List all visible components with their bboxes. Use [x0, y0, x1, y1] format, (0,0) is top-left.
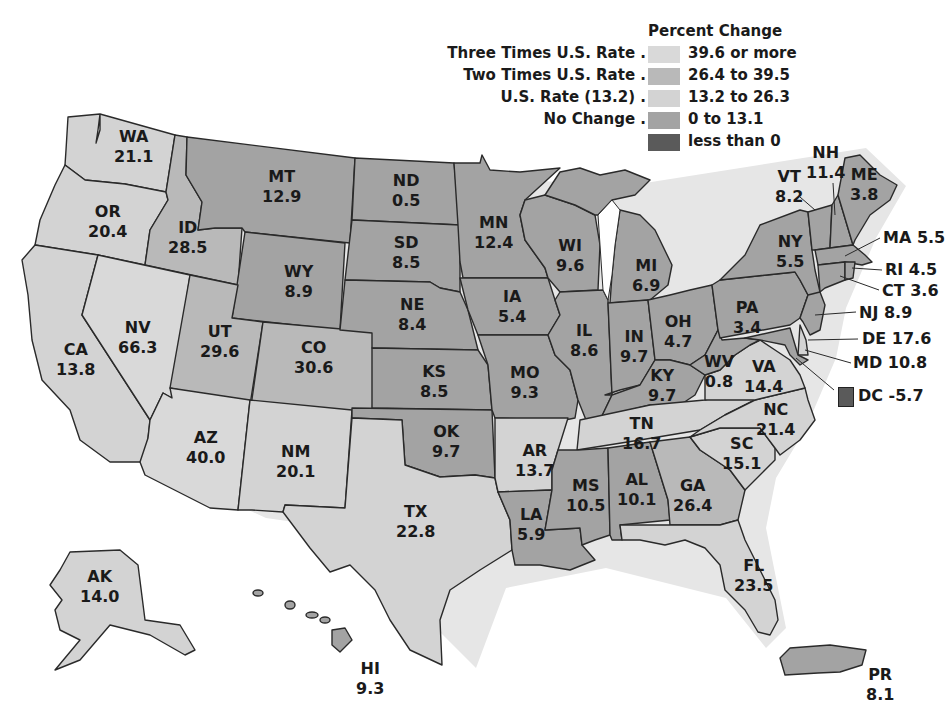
- label-nc: NC21.4: [756, 400, 795, 440]
- label-il: IL8.6: [570, 321, 598, 361]
- label-wy: WY8.9: [284, 262, 313, 302]
- legend-left-label: Two Times U.S. Rate .: [463, 66, 646, 84]
- label-md: MD 10.8: [853, 353, 927, 372]
- label-wa: WA21.1: [114, 127, 153, 167]
- state-hi: [253, 590, 352, 652]
- label-oh: OH4.7: [664, 312, 692, 352]
- label-ok: OK9.7: [432, 422, 460, 462]
- label-wi: WI9.6: [556, 236, 584, 276]
- label-mt: MT12.9: [262, 167, 301, 207]
- label-fl: FL23.5: [734, 556, 773, 596]
- label-nh: NH11.4: [806, 143, 845, 183]
- label-al: AL10.1: [617, 470, 656, 510]
- label-va: VA14.4: [744, 357, 783, 397]
- label-pr: PR8.1: [866, 665, 894, 705]
- dc-swatch: [838, 387, 854, 407]
- label-pa: PA3.4: [733, 298, 761, 338]
- label-id: ID28.5: [168, 218, 207, 258]
- legend-range: 13.2 to 26.3: [688, 88, 790, 106]
- label-ms: MS10.5: [566, 476, 605, 516]
- label-ia: IA5.4: [498, 287, 526, 327]
- label-sd: SD8.5: [392, 233, 420, 273]
- label-me: ME3.8: [850, 165, 878, 205]
- label-hi: HI9.3: [356, 659, 384, 699]
- label-az: AZ40.0: [186, 428, 225, 468]
- label-tn: TN16.7: [622, 414, 661, 454]
- label-sc: SC15.1: [722, 434, 761, 474]
- legend-row-three-times: Three Times U.S. Rate . 39.6 or more: [436, 44, 796, 64]
- label-ct: CT 3.6: [882, 281, 939, 300]
- label-or: OR20.4: [88, 202, 127, 242]
- label-ma: MA 5.5: [883, 228, 945, 247]
- label-in: IN9.7: [620, 327, 648, 367]
- legend-row-less-than-zero: less than 0: [436, 132, 796, 152]
- legend-range: less than 0: [688, 132, 781, 150]
- legend-swatch: [648, 68, 680, 85]
- label-mi: MI6.9: [632, 256, 660, 296]
- legend-swatch: [648, 134, 680, 151]
- legend-row-us-rate: U.S. Rate (13.2) . 13.2 to 26.3: [436, 88, 796, 108]
- legend-range: 26.4 to 39.5: [688, 66, 790, 84]
- label-ky: KY9.7: [648, 366, 676, 406]
- legend-left-label: No Change .: [544, 110, 646, 128]
- legend-left-label: U.S. Rate (13.2) .: [501, 88, 646, 106]
- state-pr: [780, 645, 866, 675]
- label-nj: NJ 8.9: [859, 303, 912, 322]
- label-ny: NY5.5: [776, 232, 804, 272]
- legend-title: Percent Change: [648, 22, 782, 40]
- label-nv: NV66.3: [118, 318, 157, 358]
- label-ca: CA13.8: [56, 340, 95, 380]
- legend-swatch: [648, 112, 680, 129]
- label-wv: WV0.8: [704, 352, 734, 392]
- label-ne: NE8.4: [398, 295, 426, 335]
- legend-row-two-times: Two Times U.S. Rate . 26.4 to 39.5: [436, 66, 796, 86]
- label-nd: ND0.5: [392, 171, 420, 211]
- state-ak: [50, 550, 195, 670]
- label-de: DE 17.6: [862, 329, 931, 348]
- label-ak: AK14.0: [80, 567, 119, 607]
- label-nm: NM20.1: [276, 442, 315, 482]
- label-mn: MN12.4: [474, 213, 513, 253]
- label-ks: KS8.5: [420, 362, 448, 402]
- label-co: CO30.6: [294, 338, 333, 378]
- legend-row-no-change: No Change . 0 to 13.1: [436, 110, 796, 130]
- legend-range: 39.6 or more: [688, 44, 797, 62]
- legend-swatch: [648, 46, 680, 63]
- legend-swatch: [648, 90, 680, 107]
- label-vt: VT8.2: [775, 167, 803, 207]
- label-mo: MO9.3: [510, 363, 540, 403]
- label-tx: TX22.8: [396, 502, 435, 542]
- label-ga: GA26.4: [673, 476, 712, 516]
- label-ut: UT29.6: [200, 322, 239, 362]
- legend-range: 0 to 13.1: [688, 110, 763, 128]
- state-vt: [808, 205, 832, 250]
- label-ri: RI 4.5: [885, 260, 937, 279]
- legend-left-label: Three Times U.S. Rate .: [447, 44, 646, 62]
- label-dc: DC -5.7: [858, 386, 924, 405]
- label-la: LA5.9: [517, 505, 545, 545]
- label-ar: AR13.7: [515, 441, 554, 481]
- state-ri: [845, 262, 855, 280]
